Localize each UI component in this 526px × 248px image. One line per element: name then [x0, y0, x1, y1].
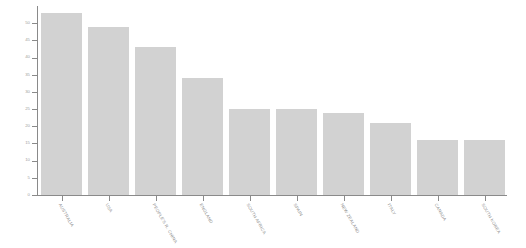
- bar: [182, 78, 222, 195]
- x-tick: [297, 196, 298, 201]
- x-tick: [344, 196, 345, 201]
- bar: [464, 140, 504, 195]
- y-tick-label-50: 50: [8, 21, 30, 25]
- y-tick-label-10: 10: [8, 158, 30, 162]
- bar: [417, 140, 457, 195]
- bar: [323, 113, 363, 195]
- y-tick-label-5: 5: [8, 176, 30, 180]
- x-tick: [109, 196, 110, 201]
- bar-chart: 05101520253035404550 AUSTRALIAUSAPEOPLE'…: [0, 0, 526, 248]
- bar: [276, 109, 316, 195]
- x-tick: [391, 196, 392, 201]
- bar: [88, 27, 128, 195]
- y-tick-label-20: 20: [8, 124, 30, 128]
- bar: [370, 123, 410, 195]
- bar: [135, 47, 175, 195]
- y-tick-label-45: 45: [8, 38, 30, 42]
- x-tick: [250, 196, 251, 201]
- x-tick: [62, 196, 63, 201]
- bar: [41, 13, 81, 195]
- y-tick-label-40: 40: [8, 55, 30, 59]
- bar: [229, 109, 269, 195]
- plot-area: [38, 6, 508, 195]
- y-tick-label-25: 25: [8, 107, 30, 111]
- y-tick-label-30: 30: [8, 90, 30, 94]
- x-tick: [438, 196, 439, 201]
- x-tick: [203, 196, 204, 201]
- x-tick: [156, 196, 157, 201]
- x-tick: [485, 196, 486, 201]
- y-tick-label-15: 15: [8, 141, 30, 145]
- y-tick-label-35: 35: [8, 73, 30, 77]
- y-tick-label-0: 0: [8, 193, 30, 197]
